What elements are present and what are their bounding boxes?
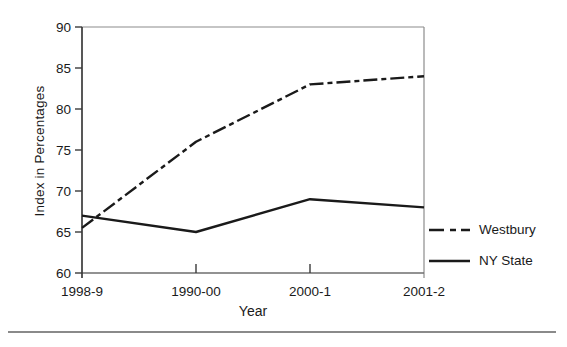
y-axis-title: Index in Percentages <box>32 86 47 217</box>
y-tick-label-70: 70 <box>56 184 71 199</box>
legend-item-ny-state: NY State <box>429 252 536 269</box>
x-tick-label-2001-2: 2001-2 <box>403 284 445 299</box>
y-tick-label-60: 60 <box>56 266 71 281</box>
legend-item-westbury: Westbury <box>429 221 536 238</box>
legend-label-westbury: Westbury <box>479 222 536 237</box>
legend: Westbury NY State <box>429 221 536 269</box>
dashed-line-sample-icon <box>429 227 470 233</box>
series-line-ny-state <box>82 199 424 232</box>
legend-label-ny-state: NY State <box>479 253 533 268</box>
y-tick-label-80: 80 <box>56 102 71 117</box>
bottom-divider-line <box>8 331 556 333</box>
x-tick-label-1998-9: 1998-9 <box>61 284 103 299</box>
x-axis-title: Year <box>239 303 267 319</box>
x-tick-label-2000-1: 2000-1 <box>289 284 331 299</box>
y-tick-label-85: 85 <box>56 61 71 76</box>
y-tick-label-75: 75 <box>56 143 71 158</box>
y-tick-label-90: 90 <box>56 20 71 35</box>
figure: 606570758085901998-91990-002000-12001-2 … <box>0 0 567 347</box>
series-line-westbury <box>82 76 424 228</box>
x-tick-label-1990-00: 1990-00 <box>171 284 221 299</box>
line-chart-plot: 606570758085901998-91990-002000-12001-2 <box>0 0 567 347</box>
y-tick-label-65: 65 <box>56 225 71 240</box>
solid-line-sample-icon <box>429 258 470 264</box>
